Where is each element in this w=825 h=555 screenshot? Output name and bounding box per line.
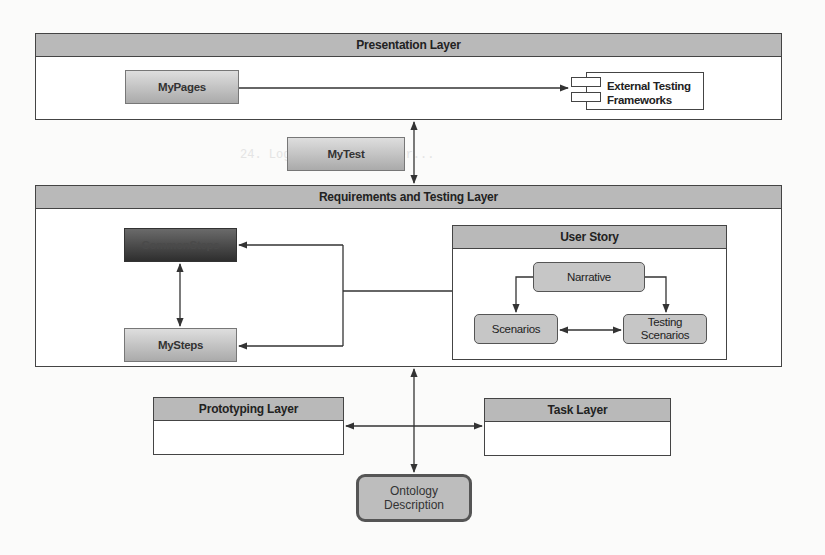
task-layer-header: Task Layer xyxy=(485,399,670,422)
scenarios-node[interactable]: Scenarios xyxy=(474,314,558,344)
mypages-label: MyPages xyxy=(158,81,206,93)
requirements-testing-layer-header: Requirements and Testing Layer xyxy=(36,186,781,209)
ontology-label-1: Ontology xyxy=(390,484,438,498)
testing-scenarios-label-1: Testing xyxy=(648,316,682,329)
task-layer: Task Layer xyxy=(484,398,671,456)
mytest-node[interactable]: MyTest xyxy=(287,137,405,171)
ontology-label-2: Description xyxy=(384,498,444,512)
external-frameworks-label-1: External Testing xyxy=(607,79,703,93)
testing-scenarios-node[interactable]: Testing Scenarios xyxy=(623,314,707,344)
component-tab-icon xyxy=(571,92,601,102)
ontology-description-node[interactable]: Ontology Description xyxy=(356,474,472,522)
narrative-node[interactable]: Narrative xyxy=(533,262,645,292)
mypages-node[interactable]: MyPages xyxy=(125,70,239,104)
component-tab-icon xyxy=(571,77,601,87)
external-testing-frameworks-node[interactable]: External Testing Frameworks xyxy=(586,72,704,110)
commonsteps-label: CommonSteps xyxy=(142,239,220,251)
mysteps-label: MySteps xyxy=(158,339,203,351)
scenarios-label: Scenarios xyxy=(492,323,540,336)
user-story-header: User Story xyxy=(453,226,726,249)
commonsteps-node[interactable]: CommonSteps xyxy=(124,228,237,262)
mysteps-node[interactable]: MySteps xyxy=(124,328,237,362)
testing-scenarios-label-2: Scenarios xyxy=(641,329,689,342)
presentation-layer-header: Presentation Layer xyxy=(36,34,781,57)
prototyping-layer-header: Prototyping Layer xyxy=(154,398,343,421)
mytest-label: MyTest xyxy=(328,148,365,160)
narrative-label: Narrative xyxy=(567,271,611,284)
external-frameworks-label-2: Frameworks xyxy=(607,93,703,107)
prototyping-layer: Prototyping Layer xyxy=(153,397,344,455)
